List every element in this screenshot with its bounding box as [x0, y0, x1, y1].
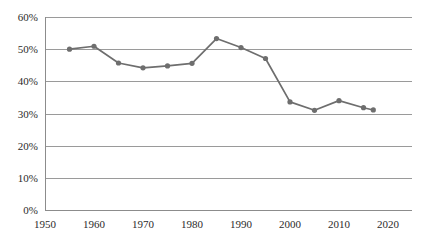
data-point-2015	[361, 105, 366, 110]
x-tick-label-1970: 1970	[132, 218, 155, 230]
data-point-1965	[116, 60, 121, 65]
line-chart: 0%10%20%30%40%50%60% 1950196019701980199…	[0, 0, 434, 241]
x-tick-label-1950: 1950	[34, 218, 57, 230]
x-tick-label-1960: 1960	[83, 218, 106, 230]
x-tick-label-2020: 2020	[377, 218, 400, 230]
y-tick-labels-group: 0%10%20%30%40%50%60%	[18, 11, 38, 216]
chart-screenshot: 0%10%20%30%40%50%60% 1950196019701980199…	[0, 0, 434, 241]
gridlines-group	[45, 18, 412, 179]
chart-canvas: 0%10%20%30%40%50%60% 1950196019701980199…	[0, 0, 434, 241]
data-point-1990	[238, 45, 243, 50]
data-point-1975	[165, 63, 170, 68]
x-tick-label-1990: 1990	[230, 218, 253, 230]
x-tick-label-2010: 2010	[328, 218, 351, 230]
data-point-1970	[140, 65, 145, 70]
x-tick-label-2000: 2000	[279, 218, 302, 230]
y-tick-label-0pct: 0%	[23, 204, 38, 216]
data-point-1980	[189, 61, 194, 66]
y-tick-label-30pct: 30%	[18, 108, 38, 120]
data-point-2005	[312, 108, 317, 113]
x-tick-labels-group: 19501960197019801990200020102020	[34, 218, 400, 230]
data-point-2000	[287, 99, 292, 104]
y-tick-label-20pct: 20%	[18, 140, 38, 152]
data-point-1960	[91, 44, 96, 49]
data-point-2010	[336, 98, 341, 103]
y-tick-label-40pct: 40%	[18, 75, 38, 87]
data-point-2017	[371, 107, 376, 112]
y-tick-label-50pct: 50%	[18, 43, 38, 55]
y-tick-label-60pct: 60%	[18, 11, 38, 23]
data-point-1995	[263, 56, 268, 61]
x-tick-label-1980: 1980	[181, 218, 204, 230]
series-markers-group	[67, 36, 376, 113]
y-tick-label-10pct: 10%	[18, 172, 38, 184]
data-point-1955	[67, 47, 72, 52]
data-point-1985	[214, 36, 219, 41]
